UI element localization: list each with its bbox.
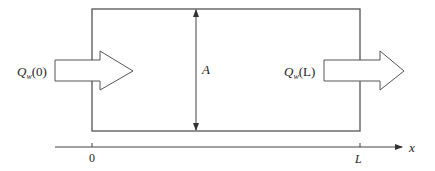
tick-label-L: L <box>354 152 362 166</box>
outflow-label: Qw(L) <box>284 64 315 81</box>
inflow-arrow-icon <box>55 51 133 90</box>
outflow-arrow-icon <box>324 51 404 90</box>
x-axis-label: x <box>408 140 415 155</box>
tick-label-0: 0 <box>89 151 95 165</box>
control-volume-diagram: A Qw(0) Qw(L) 0 L x <box>0 0 435 171</box>
inflow-label: Qw(0) <box>17 64 47 81</box>
area-label: A <box>201 62 210 77</box>
